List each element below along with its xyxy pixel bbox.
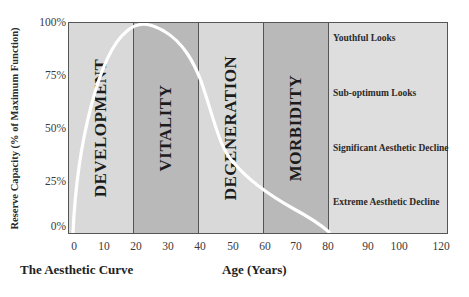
y-tick-25: 25% bbox=[28, 175, 66, 187]
plot-area: DEVELOPMENT VITALITY DEGENERATION MORBID… bbox=[68, 22, 448, 234]
y-axis-label: Reserve Capacity (% of Maximum Function) bbox=[2, 22, 26, 234]
x-tick-0: 0 bbox=[71, 240, 77, 252]
x-tick-10: 10 bbox=[98, 240, 110, 252]
x-tick-120: 120 bbox=[432, 240, 449, 252]
x-tick-60: 60 bbox=[259, 240, 271, 252]
x-tick-100: 100 bbox=[390, 240, 407, 252]
x-axis-label: Age (Years) bbox=[222, 262, 287, 278]
x-tick-20: 20 bbox=[130, 240, 142, 252]
x-tick-80: 80 bbox=[322, 240, 334, 252]
y-tick-75: 75% bbox=[28, 69, 66, 81]
y-tick-0: 0% bbox=[28, 220, 66, 232]
x-tick-90: 90 bbox=[362, 240, 374, 252]
y-tick-100: 100% bbox=[28, 16, 66, 28]
y-tick-50: 50% bbox=[28, 122, 66, 134]
x-tick-70: 70 bbox=[290, 240, 302, 252]
reserve-capacity-curve bbox=[69, 23, 447, 233]
chart-caption: The Aesthetic Curve bbox=[20, 262, 133, 278]
x-tick-40: 40 bbox=[194, 240, 206, 252]
x-tick-50: 50 bbox=[227, 240, 239, 252]
y-axis-label-text: Reserve Capacity (% of Maximum Function) bbox=[9, 27, 20, 229]
x-tick-30: 30 bbox=[162, 240, 174, 252]
